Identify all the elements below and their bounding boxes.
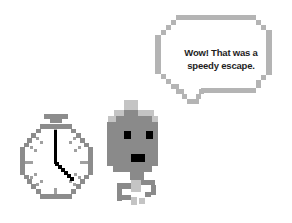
- pixel-block: [130, 172, 144, 180]
- round-creature-icon: [0, 0, 292, 223]
- pixel-block: [139, 198, 145, 204]
- pixel-block: [124, 100, 138, 110]
- pixel-block: [124, 131, 131, 139]
- pixel-block: [145, 192, 151, 197]
- illustration-scene: Wow! That was a speedy escape.: [0, 0, 292, 223]
- pixel-block: [131, 180, 141, 192]
- pixel-block: [131, 197, 137, 205]
- pixel-block: [151, 185, 156, 195]
- pixel-block: [131, 154, 145, 162]
- pixel-block: [122, 195, 131, 200]
- pixel-block: [146, 131, 153, 139]
